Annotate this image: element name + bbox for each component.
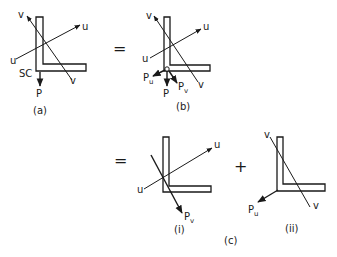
- u-label-c-i-head: u: [214, 139, 220, 150]
- shear-centre-label: SC: [19, 68, 32, 79]
- v-axis-c-ii: [270, 137, 310, 207]
- v-label-c-ii-head: v: [264, 129, 270, 140]
- panel-c-ii: v v Pu (ii): [248, 129, 325, 234]
- component-v-arrow-b: [169, 71, 177, 83]
- load-label-b: P: [163, 88, 169, 99]
- u-label-b-tail: u: [142, 53, 148, 64]
- equals-operator-1: =: [113, 39, 126, 58]
- shear-centre-point-b: [165, 67, 169, 71]
- caption-c: (c): [224, 235, 237, 246]
- caption-b: (b): [176, 101, 190, 112]
- angle-section-c-ii: [277, 137, 325, 191]
- angle-section-load-decomposition-diagram: u u v v SC P (a) = u u v v Pu Pv P (b) =…: [0, 0, 337, 257]
- caption-c-ii: (ii): [285, 223, 298, 234]
- u-axis-c-i: [144, 148, 212, 189]
- v-label-a-tail: v: [70, 75, 76, 86]
- panel-b: u u v v Pu Pv P (b): [142, 10, 210, 112]
- panel-a: u u v v SC P (a): [10, 9, 88, 116]
- component-u-arrow-b: [153, 70, 165, 76]
- caption-c-i: (i): [174, 224, 185, 235]
- v-label-c-ii-tail: v: [313, 200, 319, 211]
- caption-a: (a): [33, 105, 47, 116]
- component-u-label-b: Pu: [143, 72, 153, 86]
- equals-operator-2: =: [114, 151, 127, 170]
- panel-c-i: u u Pv (i): [137, 137, 220, 235]
- v-label-b-tail: v: [198, 79, 204, 90]
- angle-section-c-i: [163, 137, 211, 192]
- component-u-arrow-c-ii: [258, 190, 278, 202]
- load-label-a: P: [36, 88, 42, 99]
- u-label-a-head: u: [82, 21, 88, 32]
- component-u-label-c-ii: Pu: [248, 204, 258, 218]
- u-axis-a: [16, 25, 80, 59]
- plus-operator: +: [234, 157, 247, 176]
- component-v-label-b: Pv: [178, 81, 188, 95]
- u-label-c-i-tail: u: [137, 184, 143, 195]
- v-label-b-head: v: [146, 10, 152, 21]
- v-label-a-head: v: [18, 9, 24, 20]
- u-label-b-head: u: [203, 21, 209, 32]
- u-axis-b: [150, 29, 201, 58]
- u-label-a-tail: u: [10, 55, 16, 66]
- component-v-label-c-i: Pv: [184, 211, 194, 225]
